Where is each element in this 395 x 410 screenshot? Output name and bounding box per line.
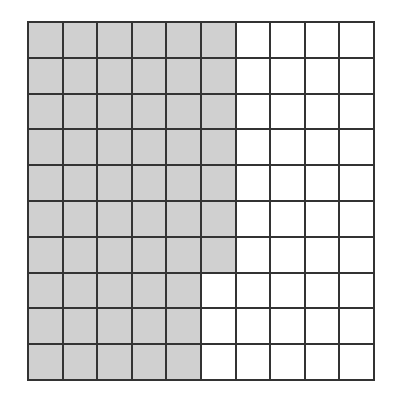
grid-cell xyxy=(236,308,271,344)
grid-cell xyxy=(305,165,340,201)
grid-cell-shaded xyxy=(28,273,63,309)
grid-cell-shaded xyxy=(166,129,201,165)
grid-cell-shaded xyxy=(166,58,201,94)
grid-cell xyxy=(339,129,374,165)
grid-cell xyxy=(339,308,374,344)
grid-cell-shaded xyxy=(132,129,167,165)
grid-cell-shaded xyxy=(63,129,98,165)
grid-cell-shaded xyxy=(28,129,63,165)
grid-cell-shaded xyxy=(63,344,98,380)
grid-cell-shaded xyxy=(63,273,98,309)
grid-cell-shaded xyxy=(201,129,236,165)
grid-cell xyxy=(236,237,271,273)
grid-cell xyxy=(339,273,374,309)
grid-cell-shaded xyxy=(97,165,132,201)
grid-cell-shaded xyxy=(97,129,132,165)
grid-cell-shaded xyxy=(28,237,63,273)
grid-cell-shaded xyxy=(63,58,98,94)
grid-cell xyxy=(305,22,340,58)
grid-cell-shaded xyxy=(63,237,98,273)
grid-cell-shaded xyxy=(166,94,201,130)
grid-cell-shaded xyxy=(28,308,63,344)
grid-cell-shaded xyxy=(132,22,167,58)
grid-cell xyxy=(236,273,271,309)
grid-cell-shaded xyxy=(166,237,201,273)
grid-cell-shaded xyxy=(97,308,132,344)
grid-cell-shaded xyxy=(97,58,132,94)
grid-cell xyxy=(339,94,374,130)
grid-cell-shaded xyxy=(201,237,236,273)
grid-cell xyxy=(270,22,305,58)
grid-cell-shaded xyxy=(166,201,201,237)
grid-cell xyxy=(236,165,271,201)
grid-cell-shaded xyxy=(97,22,132,58)
grid-cell-shaded xyxy=(201,201,236,237)
grid-cell-shaded xyxy=(28,94,63,130)
grid-cell-shaded xyxy=(166,308,201,344)
grid-cell-shaded xyxy=(132,201,167,237)
grid-cell-shaded xyxy=(63,22,98,58)
grid-cell xyxy=(305,344,340,380)
grid-cell xyxy=(339,344,374,380)
grid-cell-shaded xyxy=(132,58,167,94)
grid-cell-shaded xyxy=(28,58,63,94)
grid-cell-shaded xyxy=(201,22,236,58)
grid-cell xyxy=(236,129,271,165)
grid-cell-shaded xyxy=(63,165,98,201)
grid-cell-shaded xyxy=(97,273,132,309)
grid-cell-shaded xyxy=(97,344,132,380)
grid-cell xyxy=(305,94,340,130)
grid-cell xyxy=(305,129,340,165)
grid-cell xyxy=(270,94,305,130)
grid-cell xyxy=(236,94,271,130)
grid-cell xyxy=(305,201,340,237)
hundred-grid xyxy=(27,21,375,381)
grid-cell-shaded xyxy=(28,201,63,237)
grid-cell-shaded xyxy=(63,308,98,344)
grid-cell xyxy=(305,237,340,273)
grid-cell xyxy=(270,344,305,380)
grid-cell xyxy=(236,344,271,380)
grid-cell-shaded xyxy=(97,94,132,130)
grid-cell xyxy=(270,165,305,201)
grid-cell-shaded xyxy=(63,201,98,237)
grid-cell-shaded xyxy=(28,165,63,201)
grid-cell xyxy=(339,58,374,94)
grid-cell-shaded xyxy=(132,237,167,273)
grid-cell xyxy=(270,201,305,237)
grid-cell-shaded xyxy=(132,344,167,380)
grid-cell-shaded xyxy=(201,94,236,130)
grid-cell-shaded xyxy=(201,58,236,94)
grid-cell-shaded xyxy=(166,344,201,380)
grid-cell-shaded xyxy=(132,308,167,344)
grid-cell-shaded xyxy=(201,165,236,201)
grid-cell xyxy=(270,58,305,94)
grid-cell xyxy=(270,308,305,344)
grid-cell xyxy=(339,237,374,273)
grid-cell xyxy=(236,22,271,58)
grid-cell xyxy=(201,273,236,309)
grid-cell xyxy=(305,58,340,94)
grid-cell xyxy=(270,273,305,309)
grid-cell xyxy=(201,344,236,380)
grid-cell-shaded xyxy=(132,273,167,309)
grid-cell xyxy=(305,273,340,309)
grid-cell-shaded xyxy=(63,94,98,130)
grid-cell-shaded xyxy=(166,273,201,309)
grid-cell xyxy=(201,308,236,344)
grid-cell xyxy=(236,58,271,94)
grid-cell-shaded xyxy=(166,165,201,201)
grid-cell xyxy=(339,22,374,58)
grid-cell-shaded xyxy=(28,22,63,58)
grid-cell xyxy=(339,165,374,201)
grid-cell xyxy=(236,201,271,237)
grid-cell-shaded xyxy=(132,94,167,130)
grid-cell-shaded xyxy=(28,344,63,380)
grid-cell-shaded xyxy=(97,201,132,237)
grid-cell xyxy=(270,237,305,273)
grid-cell-shaded xyxy=(132,165,167,201)
grid-cell xyxy=(305,308,340,344)
grid-cell xyxy=(270,129,305,165)
grid-cell xyxy=(339,201,374,237)
grid-cell-shaded xyxy=(97,237,132,273)
